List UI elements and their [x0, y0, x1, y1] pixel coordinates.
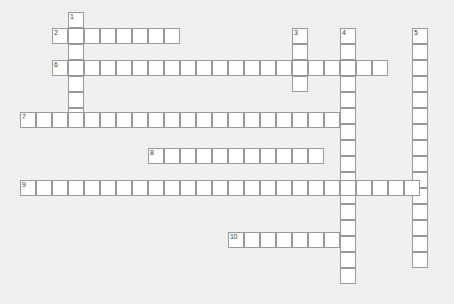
- crossword-cell[interactable]: [340, 140, 356, 156]
- crossword-cell[interactable]: [412, 220, 428, 236]
- crossword-cell-start-8-across[interactable]: 8: [148, 148, 164, 164]
- crossword-cell[interactable]: [84, 180, 100, 196]
- crossword-cell[interactable]: [412, 236, 428, 252]
- crossword-cell[interactable]: [292, 60, 308, 76]
- crossword-cell[interactable]: [68, 92, 84, 108]
- crossword-cell[interactable]: [164, 60, 180, 76]
- crossword-cell-start-1-down[interactable]: 1: [68, 12, 84, 28]
- crossword-cell-start-10-across[interactable]: 10: [228, 232, 244, 248]
- crossword-cell[interactable]: [196, 148, 212, 164]
- crossword-cell[interactable]: [244, 60, 260, 76]
- crossword-cell[interactable]: [292, 148, 308, 164]
- crossword-cell[interactable]: [292, 76, 308, 92]
- crossword-cell[interactable]: [324, 232, 340, 248]
- crossword-cell[interactable]: [100, 60, 116, 76]
- crossword-cell[interactable]: [148, 60, 164, 76]
- crossword-cell[interactable]: [340, 180, 356, 196]
- crossword-cell[interactable]: [116, 60, 132, 76]
- crossword-cell[interactable]: [412, 124, 428, 140]
- crossword-cell[interactable]: [412, 156, 428, 172]
- crossword-cell[interactable]: [412, 108, 428, 124]
- crossword-cell[interactable]: [68, 28, 84, 44]
- crossword-cell[interactable]: [244, 232, 260, 248]
- crossword-cell[interactable]: [116, 112, 132, 128]
- crossword-cell[interactable]: [340, 252, 356, 268]
- crossword-cell[interactable]: [244, 180, 260, 196]
- crossword-cell-start-6-across[interactable]: 6: [52, 60, 68, 76]
- crossword-cell[interactable]: [36, 112, 52, 128]
- crossword-cell[interactable]: [100, 112, 116, 128]
- crossword-cell[interactable]: [164, 112, 180, 128]
- crossword-cell[interactable]: [68, 44, 84, 60]
- crossword-cell[interactable]: [372, 60, 388, 76]
- crossword-cell[interactable]: [340, 268, 356, 284]
- crossword-cell[interactable]: [324, 180, 340, 196]
- crossword-cell[interactable]: [308, 180, 324, 196]
- crossword-cell[interactable]: [340, 156, 356, 172]
- crossword-cell[interactable]: [228, 180, 244, 196]
- crossword-cell[interactable]: [180, 60, 196, 76]
- crossword-cell[interactable]: [52, 112, 68, 128]
- crossword-cell[interactable]: [412, 252, 428, 268]
- crossword-cell[interactable]: [132, 112, 148, 128]
- crossword-cell[interactable]: [340, 204, 356, 220]
- crossword-cell[interactable]: [244, 112, 260, 128]
- crossword-cell[interactable]: [52, 180, 68, 196]
- crossword-cell[interactable]: [412, 204, 428, 220]
- crossword-cell[interactable]: [84, 112, 100, 128]
- crossword-cell[interactable]: [116, 180, 132, 196]
- crossword-cell[interactable]: [260, 232, 276, 248]
- crossword-cell[interactable]: [180, 148, 196, 164]
- crossword-cell[interactable]: [292, 180, 308, 196]
- crossword-cell[interactable]: [340, 92, 356, 108]
- crossword-cell[interactable]: [180, 112, 196, 128]
- crossword-cell[interactable]: [212, 60, 228, 76]
- crossword-cell[interactable]: [196, 112, 212, 128]
- crossword-cell[interactable]: [260, 180, 276, 196]
- crossword-cell[interactable]: [164, 28, 180, 44]
- crossword-cell[interactable]: [212, 112, 228, 128]
- crossword-cell-start-2-across[interactable]: 2: [52, 28, 68, 44]
- crossword-cell-start-5-down[interactable]: 5: [412, 28, 428, 44]
- crossword-cell[interactable]: [324, 60, 340, 76]
- crossword-cell[interactable]: [308, 148, 324, 164]
- crossword-cell[interactable]: [84, 28, 100, 44]
- crossword-cell[interactable]: [276, 232, 292, 248]
- crossword-cell[interactable]: [276, 112, 292, 128]
- crossword-cell[interactable]: [148, 112, 164, 128]
- crossword-cell[interactable]: [340, 76, 356, 92]
- crossword-cell[interactable]: [324, 112, 340, 128]
- crossword-cell-start-4-down[interactable]: 4: [340, 28, 356, 44]
- crossword-cell[interactable]: [68, 112, 84, 128]
- crossword-cell[interactable]: [212, 180, 228, 196]
- crossword-cell[interactable]: [260, 112, 276, 128]
- crossword-cell[interactable]: [180, 180, 196, 196]
- crossword-cell[interactable]: [196, 180, 212, 196]
- crossword-cell[interactable]: [412, 76, 428, 92]
- crossword-cell[interactable]: [228, 112, 244, 128]
- crossword-cell[interactable]: [404, 180, 420, 196]
- crossword-cell[interactable]: [276, 180, 292, 196]
- crossword-cell[interactable]: [132, 180, 148, 196]
- crossword-cell[interactable]: [84, 60, 100, 76]
- crossword-cell[interactable]: [308, 112, 324, 128]
- crossword-cell[interactable]: [292, 112, 308, 128]
- crossword-cell[interactable]: [412, 44, 428, 60]
- crossword-cell[interactable]: [388, 180, 404, 196]
- crossword-cell[interactable]: [412, 60, 428, 76]
- crossword-cell[interactable]: [68, 180, 84, 196]
- crossword-cell[interactable]: [340, 124, 356, 140]
- crossword-cell[interactable]: [292, 44, 308, 60]
- crossword-cell-start-7-across[interactable]: 7: [20, 112, 36, 128]
- crossword-cell[interactable]: [116, 28, 132, 44]
- crossword-cell[interactable]: [68, 60, 84, 76]
- crossword-cell[interactable]: [340, 44, 356, 60]
- crossword-cell[interactable]: [164, 148, 180, 164]
- crossword-cell[interactable]: [36, 180, 52, 196]
- crossword-cell[interactable]: [260, 60, 276, 76]
- crossword-cell[interactable]: [132, 60, 148, 76]
- crossword-cell[interactable]: [412, 92, 428, 108]
- crossword-cell-start-3-down[interactable]: 3: [292, 28, 308, 44]
- crossword-cell[interactable]: [100, 180, 116, 196]
- crossword-cell[interactable]: [100, 28, 116, 44]
